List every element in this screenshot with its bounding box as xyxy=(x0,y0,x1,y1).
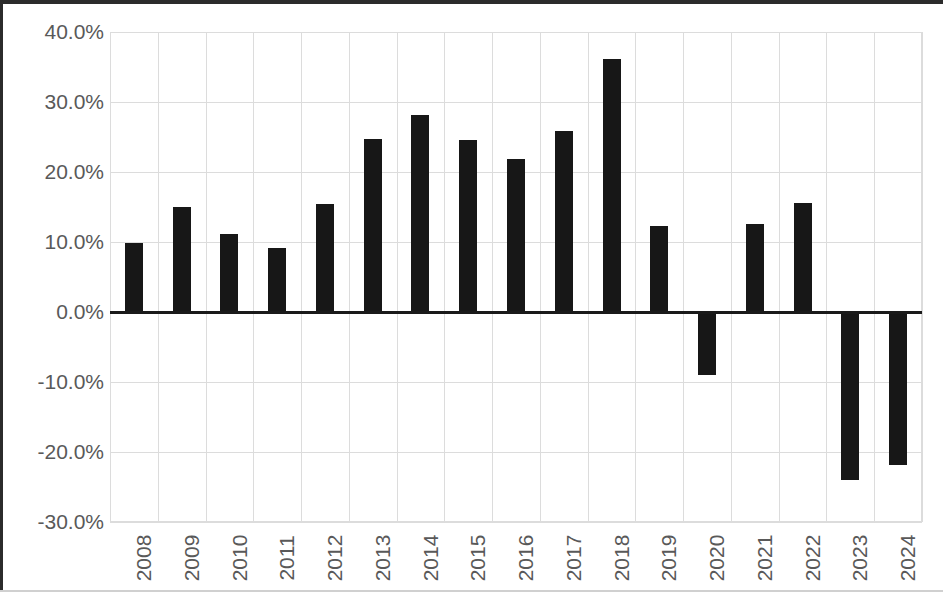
x-axis-tick-2010: 2010 xyxy=(206,524,254,592)
x-axis-tick-2014: 2014 xyxy=(397,524,445,592)
x-axis-tick-label: 2024 xyxy=(897,535,918,582)
bar-2013[interactable] xyxy=(364,139,382,312)
x-axis-tick-label: 2023 xyxy=(849,535,870,582)
gridline-vertical xyxy=(301,32,302,522)
plot-area xyxy=(110,32,922,522)
x-axis-tick-2016: 2016 xyxy=(492,524,540,592)
x-axis-tick-label: 2021 xyxy=(754,535,775,582)
x-axis-tick-label: 2011 xyxy=(276,535,297,580)
x-axis-tick-label: 2020 xyxy=(706,535,727,582)
x-axis-tick-2009: 2009 xyxy=(158,524,206,592)
gridline-vertical xyxy=(683,32,684,522)
x-axis: 2008200920102011201220132014201520162017… xyxy=(110,524,922,594)
x-axis-tick-label: 2010 xyxy=(229,535,250,582)
bar-2014[interactable] xyxy=(411,115,429,312)
y-axis-tick-label: 0.0% xyxy=(0,301,104,322)
gridline-horizontal xyxy=(110,102,922,103)
bar-2009[interactable] xyxy=(173,207,191,312)
y-axis-tick-label: 30.0% xyxy=(0,91,104,112)
bar-2022[interactable] xyxy=(794,203,812,312)
x-axis-tick-2013: 2013 xyxy=(349,524,397,592)
bar-2024[interactable] xyxy=(889,312,907,465)
x-axis-tick-2019: 2019 xyxy=(635,524,683,592)
bar-2016[interactable] xyxy=(507,159,525,312)
x-axis-tick-label: 2016 xyxy=(515,535,536,582)
gridline-horizontal xyxy=(110,522,922,523)
gridline-vertical xyxy=(206,32,207,522)
gridline-vertical xyxy=(731,32,732,522)
gridline-vertical xyxy=(110,32,111,522)
bar-2017[interactable] xyxy=(555,131,573,312)
gridline-vertical xyxy=(588,32,589,522)
bar-2011[interactable] xyxy=(268,248,286,312)
gridline-vertical xyxy=(540,32,541,522)
gridline-vertical xyxy=(826,32,827,522)
x-axis-tick-2017: 2017 xyxy=(540,524,588,592)
x-axis-tick-label: 2019 xyxy=(658,535,679,582)
x-axis-tick-2008: 2008 xyxy=(110,524,158,592)
y-axis-tick-label: -30.0% xyxy=(0,511,104,532)
y-axis-tick-label: 20.0% xyxy=(0,161,104,182)
y-axis-tick-label: -10.0% xyxy=(0,371,104,392)
bar-chart: 40.0%30.0%20.0%10.0%0.0%-10.0%-20.0%-30.… xyxy=(0,0,943,602)
gridline-vertical xyxy=(444,32,445,522)
x-axis-tick-2018: 2018 xyxy=(588,524,636,592)
x-axis-tick-label: 2009 xyxy=(181,535,202,582)
gridline-vertical xyxy=(874,32,875,522)
x-axis-tick-label: 2008 xyxy=(133,535,154,582)
x-axis-tick-2012: 2012 xyxy=(301,524,349,592)
bar-2015[interactable] xyxy=(459,140,477,312)
x-axis-tick-label: 2013 xyxy=(372,535,393,582)
gridline-vertical xyxy=(779,32,780,522)
gridline-vertical xyxy=(158,32,159,522)
x-axis-tick-label: 2012 xyxy=(324,535,345,582)
x-axis-tick-2020: 2020 xyxy=(683,524,731,592)
window-frame-top-border xyxy=(0,0,943,4)
x-axis-tick-2021: 2021 xyxy=(731,524,779,592)
x-axis-tick-label: 2015 xyxy=(467,535,488,582)
bar-2018[interactable] xyxy=(603,59,621,312)
gridline-vertical xyxy=(397,32,398,522)
bar-2019[interactable] xyxy=(650,226,668,312)
x-axis-tick-2022: 2022 xyxy=(779,524,827,592)
gridline-vertical xyxy=(492,32,493,522)
gridline-horizontal xyxy=(110,382,922,383)
x-axis-tick-2024: 2024 xyxy=(874,524,922,592)
x-axis-tick-label: 2018 xyxy=(611,535,632,582)
y-axis-tick-label: 40.0% xyxy=(0,21,104,42)
bar-2010[interactable] xyxy=(220,234,238,312)
bar-2023[interactable] xyxy=(841,312,859,480)
x-axis-tick-2011: 2011 xyxy=(253,524,301,592)
gridline-horizontal xyxy=(110,32,922,33)
bar-2008[interactable] xyxy=(125,243,143,312)
bar-2021[interactable] xyxy=(746,224,764,312)
y-axis-tick-label: 10.0% xyxy=(0,231,104,252)
y-axis: 40.0%30.0%20.0%10.0%0.0%-10.0%-20.0%-30.… xyxy=(0,0,104,602)
bar-2012[interactable] xyxy=(316,204,334,312)
gridline-vertical xyxy=(922,32,923,522)
gridline-vertical xyxy=(635,32,636,522)
x-axis-tick-2023: 2023 xyxy=(826,524,874,592)
zero-baseline xyxy=(110,311,922,314)
x-axis-tick-2015: 2015 xyxy=(444,524,492,592)
x-axis-tick-label: 2014 xyxy=(420,535,441,582)
x-axis-tick-label: 2017 xyxy=(563,535,584,582)
gridline-vertical xyxy=(253,32,254,522)
x-axis-tick-label: 2022 xyxy=(802,535,823,582)
bar-2020[interactable] xyxy=(698,312,716,375)
y-axis-tick-label: -20.0% xyxy=(0,441,104,462)
gridline-horizontal xyxy=(110,452,922,453)
gridline-vertical xyxy=(349,32,350,522)
